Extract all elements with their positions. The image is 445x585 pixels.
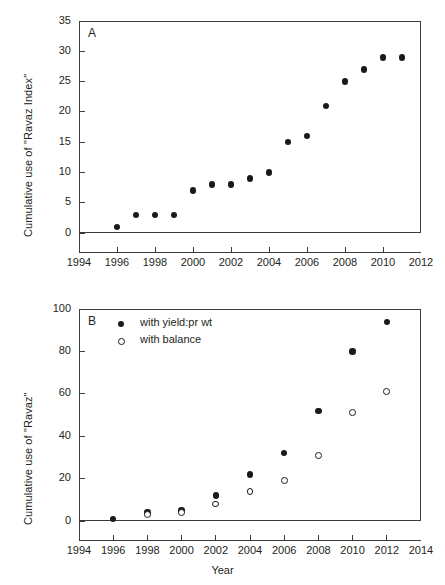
data-point (399, 54, 405, 60)
y-tick-label: 15 (33, 135, 71, 147)
data-point (315, 452, 322, 459)
y-tick-label: 20 (33, 471, 71, 483)
y-tick-label: 10 (33, 165, 71, 177)
figure-scatter-panels: Cumulative use of "Ravaz Index" A 051015… (0, 0, 445, 585)
legend-label: with yield:pr wt (140, 316, 212, 328)
data-point (209, 181, 215, 187)
y-tick (80, 81, 85, 82)
panel-a-plot-frame (79, 21, 421, 233)
y-tick (80, 233, 85, 234)
panel-b-letter: B (88, 314, 96, 328)
panel-b-axis-extension (79, 521, 80, 540)
open-circle-icon (118, 338, 125, 345)
panel-a-axis-baseline (79, 252, 421, 253)
y-tick-label: 0 (33, 514, 71, 526)
y-tick-label: 60 (33, 386, 71, 398)
data-point (110, 516, 116, 522)
y-tick-label: 80 (33, 344, 71, 356)
data-point (213, 492, 219, 498)
data-point (342, 78, 348, 84)
data-point (247, 488, 254, 495)
y-tick (80, 478, 85, 479)
y-tick-label: 20 (33, 104, 71, 116)
y-tick (80, 142, 85, 143)
y-tick-label: 30 (33, 44, 71, 56)
legend-label: with balance (140, 333, 201, 345)
x-tick-label: 2014 (399, 544, 443, 556)
y-tick-label: 100 (33, 302, 71, 314)
panel-a: Cumulative use of "Ravaz Index" A 051015… (0, 0, 445, 290)
y-tick (80, 521, 85, 522)
data-point (247, 471, 253, 477)
data-point (190, 187, 196, 193)
y-tick-label: 25 (33, 74, 71, 86)
panel-a-y-axis-label: Cumulative use of "Ravaz Index" (22, 74, 34, 237)
data-point (266, 169, 272, 175)
panel-a-axis-extension (79, 233, 80, 252)
data-point (315, 408, 321, 414)
data-point (361, 66, 367, 72)
y-tick (80, 393, 85, 394)
panel-b-x-axis-label: Year (0, 564, 445, 576)
data-point (247, 175, 253, 181)
y-tick-label: 40 (33, 429, 71, 441)
x-tick-label: 2012 (399, 256, 443, 268)
panel-b-y-axis-label: Cumulative use of "Ravaz" (22, 392, 34, 525)
y-tick (80, 202, 85, 203)
data-point (384, 319, 390, 325)
data-point (178, 509, 185, 516)
data-point (281, 477, 288, 484)
y-tick (80, 436, 85, 437)
y-tick (80, 351, 85, 352)
data-point (380, 54, 386, 60)
panel-a-letter: A (88, 26, 96, 40)
y-tick (80, 51, 85, 52)
panel-b-axis-baseline (79, 540, 421, 541)
panel-b: Cumulative use of "Ravaz" B 020406080100… (0, 285, 445, 585)
y-tick-label: 0 (33, 226, 71, 238)
data-point (228, 181, 234, 187)
data-point (144, 511, 151, 518)
data-point (349, 348, 355, 354)
data-point (323, 103, 329, 109)
y-tick (80, 111, 85, 112)
y-tick (80, 172, 85, 173)
y-tick-label: 35 (33, 14, 71, 26)
y-tick-label: 5 (33, 195, 71, 207)
